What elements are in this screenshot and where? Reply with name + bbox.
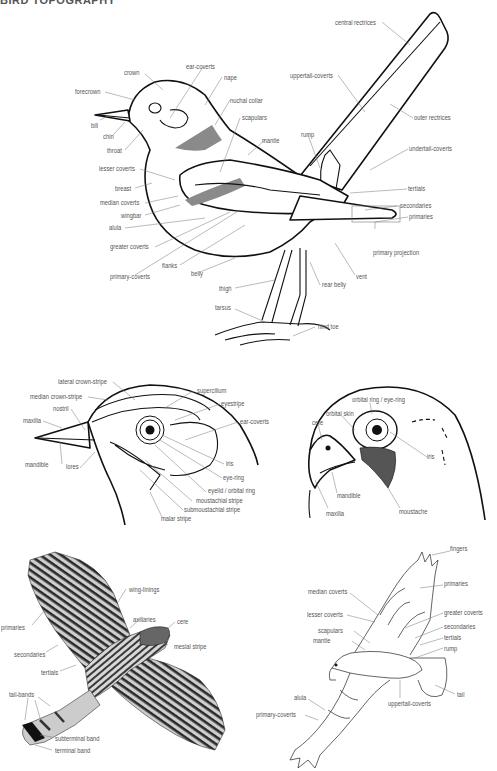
label-wing-linings: wing-linings bbox=[129, 587, 159, 594]
label-nostril: nostril bbox=[53, 406, 68, 413]
label-greater-coverts-upper: greater coverts bbox=[444, 610, 483, 617]
label-secondaries: secondaries bbox=[400, 203, 431, 210]
label-alula: alula bbox=[109, 225, 121, 232]
label-tertials: tertials bbox=[408, 186, 425, 193]
label-secondaries-hawk: secondaries bbox=[14, 652, 45, 659]
label-hind-toe: hind toe bbox=[318, 324, 339, 331]
label-terminal-band: terminal band bbox=[55, 748, 90, 755]
label-primary-coverts-upper: primary-coverts bbox=[256, 712, 296, 719]
label-central-rectrices: central rectrices bbox=[335, 20, 376, 27]
label-cere-head: cere bbox=[312, 420, 323, 427]
label-tail-bands: tail-bands bbox=[9, 692, 34, 699]
label-eyelid-orbital-ring: eyelid / orbital ring bbox=[208, 488, 255, 495]
label-lateral-crown-stripe: lateral crown-stripe bbox=[58, 379, 107, 386]
label-primaries-upper: primaries bbox=[444, 581, 468, 588]
label-primaries: primaries bbox=[409, 214, 433, 221]
raptor-head-diagram: orbital ring / eye-ring orbital skin cer… bbox=[270, 370, 497, 540]
label-crown: crown bbox=[124, 70, 139, 77]
label-eye-ring: eye-ring bbox=[223, 475, 244, 482]
label-primary-coverts: primary-coverts bbox=[110, 274, 150, 281]
label-thigh: thigh bbox=[219, 286, 232, 293]
label-mantle-upper: mantle bbox=[313, 638, 330, 645]
hawk-underside-diagram: wing-linings axillaries cere primaries m… bbox=[0, 540, 260, 771]
label-rear-belly: rear belly bbox=[322, 282, 346, 289]
songbird-side-diagram: crown ear-coverts nape forecrown nuchal … bbox=[0, 0, 497, 370]
label-median-coverts: median coverts bbox=[100, 200, 139, 207]
label-flanks: flanks bbox=[162, 263, 177, 270]
label-mandible: mandible bbox=[25, 462, 49, 469]
label-tertials-hawk: tertials bbox=[41, 670, 58, 677]
label-fingers: fingers bbox=[450, 546, 467, 553]
label-lesser-coverts: lesser coverts bbox=[99, 166, 135, 173]
label-lores: lores bbox=[66, 464, 79, 471]
label-orbital-skin: orbital skin bbox=[326, 411, 354, 418]
raptor-upperside-illustration bbox=[270, 540, 497, 771]
label-scapulars-upper: scapulars bbox=[318, 628, 343, 635]
raptor-upperside-diagram: fingers primaries median coverts lesser … bbox=[270, 540, 497, 771]
label-primary-projection: primary projection bbox=[373, 250, 419, 257]
label-median-crown-stripe: median crown-stripe bbox=[30, 394, 82, 401]
label-bill: bill bbox=[91, 123, 98, 130]
label-throat: throat bbox=[107, 148, 122, 155]
label-moustache: moustache bbox=[399, 509, 427, 516]
label-cere-hawk: cere bbox=[177, 619, 188, 626]
label-outer-rectrices: outer rectrices bbox=[414, 115, 451, 122]
label-rump: rump bbox=[301, 132, 314, 139]
label-alula-upper: alula bbox=[294, 695, 306, 702]
label-iris: iris bbox=[226, 461, 233, 468]
label-wingbar: wingbar bbox=[121, 213, 141, 220]
songbird-head-diagram: lateral crown-stripe median crown-stripe… bbox=[0, 370, 260, 540]
label-axillaries: axillaries bbox=[133, 617, 156, 624]
label-vent: vent bbox=[356, 274, 367, 281]
label-belly: belly bbox=[191, 271, 203, 278]
label-supercilium: supercilium bbox=[197, 388, 226, 395]
label-rump-upper: rump bbox=[444, 646, 457, 653]
label-tail-upper: tail bbox=[457, 692, 464, 699]
label-ear-coverts-head: ear-coverts bbox=[240, 419, 269, 426]
label-breast: breast bbox=[115, 186, 131, 193]
label-secondaries-upper: secondaries bbox=[444, 624, 475, 631]
label-forecrown: forecrown bbox=[75, 89, 100, 96]
label-uppertail-coverts: uppertail-coverts bbox=[290, 73, 333, 80]
label-maxilla: maxilla bbox=[23, 418, 41, 425]
label-undertail-coverts: undertail-coverts bbox=[409, 146, 452, 153]
label-uppertail-coverts-upper: uppertail-coverts bbox=[388, 701, 431, 708]
label-iris-raptor: iris bbox=[427, 454, 434, 461]
label-maxilla-raptor: maxilla bbox=[326, 511, 344, 518]
label-chin: chin bbox=[103, 134, 114, 141]
label-eyestripe: eyestripe bbox=[221, 401, 245, 408]
label-greater-coverts: greater coverts bbox=[110, 244, 149, 251]
label-tarsus: tarsus bbox=[215, 305, 231, 312]
label-submoustachial-stripe: submoustachial stripe bbox=[184, 507, 240, 514]
label-nuchal-collar: nuchal collar bbox=[230, 98, 263, 105]
label-orbital-ring: orbital ring / eye-ring bbox=[352, 397, 405, 404]
label-nape: nape bbox=[224, 75, 237, 82]
label-moustachial-stripe: moustachial stripe bbox=[196, 498, 243, 505]
label-subterminal-band: subterminal band bbox=[55, 736, 100, 743]
label-primaries-hawk: primaries bbox=[1, 625, 25, 632]
raptor-upper-leader-lines bbox=[305, 551, 455, 720]
label-lesser-coverts-upper: lesser coverts bbox=[307, 612, 343, 619]
label-scapulars: scapulars bbox=[242, 115, 267, 122]
label-mantle: mantle bbox=[262, 138, 279, 145]
label-ear-coverts: ear-coverts bbox=[186, 64, 215, 71]
label-tertials-upper: tertials bbox=[444, 635, 461, 642]
label-median-coverts-upper: median coverts bbox=[308, 589, 347, 596]
label-mandible-raptor: mandible bbox=[337, 493, 361, 500]
label-mesial-stripe: mesial stripe bbox=[174, 644, 207, 651]
label-malar-stripe: malar stripe bbox=[161, 516, 191, 523]
